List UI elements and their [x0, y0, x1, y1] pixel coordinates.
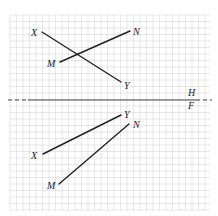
point-labels: XNMYHFYNXM [30, 26, 196, 191]
label-n: N [132, 26, 141, 37]
label-x: X [30, 27, 38, 38]
label-h: H [187, 87, 196, 98]
line-xy-frontal-view [43, 115, 121, 154]
grid [10, 15, 210, 211]
label-y: Y [124, 109, 131, 120]
label-f: F [187, 100, 195, 111]
label-m: M [46, 180, 56, 191]
projection-diagram: XNMYHFYNXM [0, 0, 218, 216]
label-y: Y [124, 80, 131, 91]
line-mn-horizontal-view [60, 31, 130, 62]
label-n: N [132, 119, 141, 130]
label-x: X [30, 150, 38, 161]
label-m: M [46, 58, 56, 69]
line-mn-frontal-view [59, 124, 129, 184]
